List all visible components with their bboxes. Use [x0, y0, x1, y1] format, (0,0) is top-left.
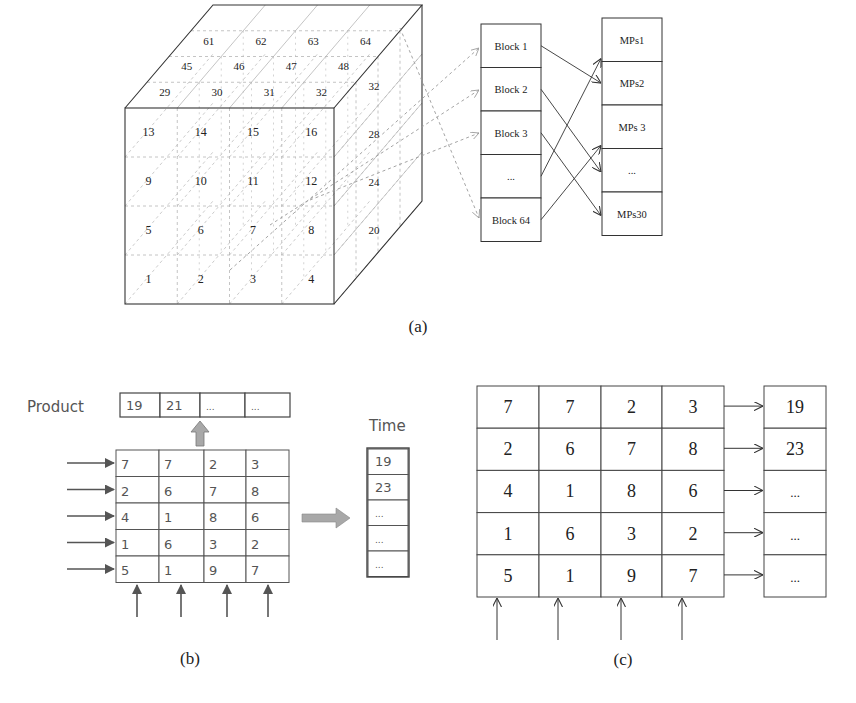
mp-label: MPs1 — [620, 35, 645, 46]
matrix-b-value: 1 — [121, 537, 129, 552]
right-arrow-icon — [302, 508, 350, 528]
matrix-b-value: 2 — [121, 484, 129, 499]
block-label: Block 1 — [495, 41, 528, 52]
matrix-b-value: 3 — [251, 457, 259, 472]
mp-label: MPs 3 — [618, 122, 645, 133]
up-arrow-icon — [191, 421, 209, 446]
matrix-b-value: 7 — [121, 457, 129, 472]
cube-depth-diagonal — [125, 152, 213, 255]
cube-cell-number: 9 — [146, 174, 152, 188]
cube-top-number: 47 — [286, 60, 298, 72]
matrix-c-value: 7 — [504, 397, 513, 417]
cube-cell-number: 12 — [305, 174, 317, 188]
matrix-c-value: 3 — [689, 397, 698, 417]
block-label: Block 64 — [492, 215, 531, 226]
figure-canvas: 1314151691011125678123461626364454647482… — [0, 0, 856, 703]
matrix-c-value: 7 — [627, 439, 636, 459]
matrix-c-value: 6 — [689, 481, 698, 501]
time-value: ... — [375, 509, 384, 519]
result-value: 19 — [786, 397, 804, 417]
block-to-mp-arrow — [541, 133, 601, 216]
matrix-b-value: 7 — [164, 457, 172, 472]
cube-side-number: 20 — [369, 224, 381, 236]
time-value: 19 — [375, 454, 392, 469]
block-label: Block 3 — [495, 128, 528, 139]
cube-top-number: 63 — [308, 35, 320, 47]
product-value: ... — [206, 402, 215, 412]
matrix-b-value: 8 — [251, 484, 259, 499]
cube-cell-number: 6 — [198, 223, 204, 237]
block-to-mp-arrow — [541, 89, 601, 172]
cube-top-number: 29 — [159, 86, 171, 98]
result-value: ... — [790, 485, 800, 500]
cube-cell-number: 8 — [308, 223, 314, 237]
time-value: ... — [375, 560, 384, 570]
cube-to-block-arrow — [270, 90, 479, 225]
time-cell — [368, 500, 408, 526]
matrix-c-value: 1 — [566, 566, 575, 586]
block-to-mp-arrow — [541, 59, 601, 177]
mp-label: ... — [628, 165, 636, 176]
cube-depth-diagonal — [282, 152, 370, 255]
matrix-b-value: 6 — [164, 537, 172, 552]
caption-b: (b) — [180, 649, 200, 668]
result-value: 23 — [786, 439, 804, 459]
cube-top-number: 30 — [212, 86, 224, 98]
time-cell — [368, 551, 408, 577]
product-value: 19 — [126, 398, 143, 413]
block-to-mp-arrow — [541, 146, 601, 220]
caption-a: (a) — [409, 317, 428, 336]
matrix-c-value: 2 — [627, 397, 636, 417]
cube-depth-diagonal — [125, 54, 213, 157]
time-value: 23 — [375, 480, 392, 495]
cube-top-number: 32 — [316, 86, 327, 98]
time-label: Time — [368, 417, 406, 435]
matrix-b-value: 6 — [164, 484, 172, 499]
matrix-b-value: 1 — [164, 510, 172, 525]
matrix-b-value: 2 — [251, 537, 259, 552]
matrix-c-value: 2 — [504, 439, 513, 459]
cube-depth-diagonal — [230, 152, 318, 255]
cube-cell-number: 7 — [250, 223, 256, 237]
cube-top-number: 45 — [181, 60, 193, 72]
cube-cell-number: 2 — [198, 272, 204, 286]
cube-depth-diagonal — [125, 103, 213, 206]
cube-top-number: 61 — [203, 35, 214, 47]
caption-c: (c) — [614, 650, 633, 669]
matrix-b-value: 2 — [209, 457, 217, 472]
cube-side-number: 24 — [369, 176, 381, 188]
panel-a-cube-mapping: 1314151691011125678123461626364454647482… — [125, 5, 662, 336]
time-cell — [368, 526, 408, 552]
cube-cell-number: 13 — [143, 125, 155, 139]
matrix-b-value: 9 — [209, 563, 217, 578]
matrix-b-value: 7 — [251, 563, 259, 578]
product-value: 21 — [166, 398, 183, 413]
matrix-c-value: 6 — [566, 439, 575, 459]
matrix-c-value: 5 — [504, 566, 513, 586]
matrix-c-value: 1 — [566, 481, 575, 501]
cube-cell-number: 1 — [146, 272, 152, 286]
cube-cell-number: 10 — [195, 174, 207, 188]
cube-cell-number: 16 — [305, 125, 317, 139]
matrix-c-value: 7 — [689, 566, 698, 586]
result-value: ... — [790, 528, 800, 543]
cube-depth-diagonal — [282, 201, 370, 304]
matrix-c-value: 6 — [566, 524, 575, 544]
cube-depth-diagonal — [177, 201, 265, 304]
matrix-c-value: 1 — [504, 524, 513, 544]
cube-to-block-arrow — [310, 133, 479, 200]
matrix-b-value: 4 — [121, 510, 129, 525]
cube-cell-number: 5 — [146, 223, 152, 237]
matrix-b-value: 1 — [164, 563, 172, 578]
matrix-b-value: 3 — [209, 537, 217, 552]
panel-b-product-time: Product1921......77232678418616325197Tim… — [27, 393, 409, 668]
block-label: ... — [507, 171, 515, 182]
mp-label: MPs30 — [617, 209, 647, 220]
cube-to-block-arrow — [230, 48, 479, 270]
product-value: ... — [251, 402, 260, 412]
cube-top-number: 46 — [234, 60, 246, 72]
cube-cell-number: 15 — [247, 125, 259, 139]
cube-cell-number: 11 — [247, 174, 259, 188]
matrix-c-value: 3 — [627, 524, 636, 544]
panel-c-row-sum: 772326784186163251971923.........(c) — [477, 386, 826, 669]
